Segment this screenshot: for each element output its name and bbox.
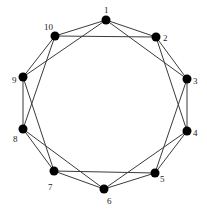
node-label-5: 5	[160, 174, 165, 184]
edge-1-3	[106, 20, 187, 79]
node-label-6: 6	[107, 196, 112, 206]
edges-group	[23, 20, 187, 189]
edge-5-7	[54, 171, 155, 173]
node-10	[51, 32, 60, 41]
node-label-7: 7	[48, 182, 53, 192]
graph-diagram: 12345678910	[0, 0, 207, 211]
node-1	[102, 16, 111, 25]
edge-6-7	[54, 171, 104, 189]
node-8	[19, 125, 28, 134]
node-label-4: 4	[193, 128, 198, 138]
edge-2-4	[156, 37, 187, 131]
edge-7-9	[23, 77, 54, 171]
node-3	[183, 75, 192, 84]
edge-1-9	[23, 20, 106, 77]
edge-2-10	[55, 36, 156, 37]
node-2	[152, 33, 161, 42]
node-5	[151, 169, 160, 178]
graph-svg: 12345678910	[0, 0, 207, 211]
edge-1-10	[55, 20, 106, 36]
node-label-3: 3	[193, 76, 198, 86]
node-label-8: 8	[13, 134, 18, 144]
edge-4-6	[104, 131, 187, 189]
node-6	[100, 185, 109, 194]
labels-group: 12345678910	[12, 5, 198, 206]
node-label-10: 10	[44, 22, 54, 32]
node-label-1: 1	[104, 5, 109, 15]
edge-2-3	[156, 37, 187, 79]
node-7	[50, 167, 59, 176]
edge-4-5	[155, 131, 187, 173]
edge-8-10	[23, 36, 55, 129]
edge-6-8	[23, 129, 104, 189]
node-label-2: 2	[163, 33, 168, 43]
edge-3-5	[155, 79, 187, 173]
edge-1-2	[106, 20, 156, 37]
edge-7-8	[23, 129, 54, 171]
node-9	[19, 73, 28, 82]
edge-5-6	[104, 173, 155, 189]
node-label-9: 9	[12, 75, 17, 85]
edge-9-10	[23, 36, 55, 77]
node-4	[183, 127, 192, 136]
